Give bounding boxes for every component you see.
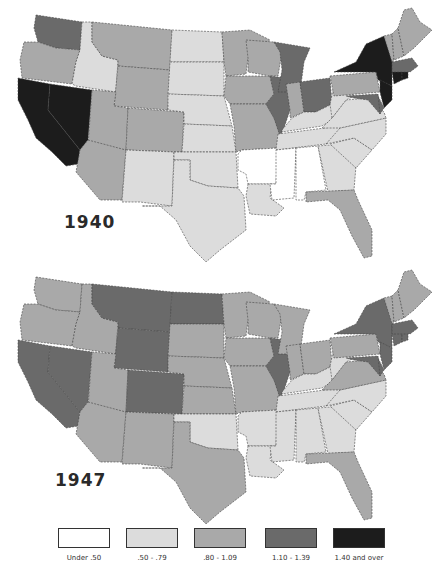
- legend-swatch: [333, 528, 385, 548]
- state-ma: [392, 320, 418, 334]
- legend-swatch: [126, 528, 178, 548]
- state-sd: [168, 324, 224, 358]
- state-ks: [182, 386, 236, 414]
- legend-label: 1.40 and over: [332, 554, 386, 562]
- year-label-1947: 1947: [55, 470, 106, 490]
- state-pa: [330, 72, 380, 96]
- legend-label: .50 - .79: [125, 554, 179, 562]
- state-co: [126, 370, 184, 414]
- state-ia: [224, 338, 274, 366]
- state-wy: [114, 66, 170, 110]
- legend-label: .80 - 1.09: [193, 554, 247, 562]
- state-nm: [122, 412, 174, 468]
- state-pa: [330, 334, 380, 358]
- legend-label: 1.10 - 1.39: [264, 554, 318, 562]
- state-me: [398, 8, 432, 56]
- legend-swatch: [58, 528, 110, 548]
- state-fl: [306, 452, 372, 520]
- legend-item-50-79: .50 - .79: [125, 528, 179, 562]
- legend-item-140-over: 1.40 and over: [332, 528, 386, 562]
- legend-item-under-50: Under .50: [57, 528, 111, 562]
- state-ia: [224, 76, 274, 104]
- state-wy: [114, 328, 170, 372]
- legend-item-80-109: .80 - 1.09: [193, 528, 247, 562]
- legend-label: Under .50: [57, 554, 111, 562]
- year-label-1940: 1940: [64, 212, 115, 232]
- legend-swatch: [265, 528, 317, 548]
- state-nd: [170, 292, 224, 324]
- legend-swatch: [194, 528, 246, 548]
- state-me: [398, 270, 432, 318]
- state-fl: [306, 190, 372, 258]
- state-az: [76, 402, 126, 462]
- state-ar: [238, 148, 278, 184]
- legend: Under .50 .50 - .79 .80 - 1.09 1.10 - 1.…: [0, 528, 443, 568]
- state-nm: [122, 150, 174, 206]
- state-nd: [170, 30, 224, 62]
- state-co: [126, 108, 184, 152]
- state-ar: [238, 410, 278, 446]
- state-sd: [168, 62, 224, 96]
- legend-item-110-139: 1.10 - 1.39: [264, 528, 318, 562]
- state-az: [76, 140, 126, 200]
- state-ma: [392, 58, 418, 72]
- state-ks: [182, 124, 236, 152]
